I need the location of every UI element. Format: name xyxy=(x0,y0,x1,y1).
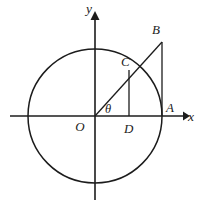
y-axis-label: y xyxy=(84,1,92,16)
angle-label-theta: θ xyxy=(105,102,111,116)
point-label-D: D xyxy=(123,121,134,136)
diagram-canvas: x y O θ A B C D xyxy=(0,0,203,209)
trigonometry-figure: x y O θ A B C D xyxy=(0,0,203,209)
point-label-B: B xyxy=(152,22,160,37)
point-label-A: A xyxy=(165,100,174,115)
x-axis-label: x xyxy=(187,109,194,124)
point-label-O: O xyxy=(75,119,85,134)
point-label-C: C xyxy=(121,54,130,69)
